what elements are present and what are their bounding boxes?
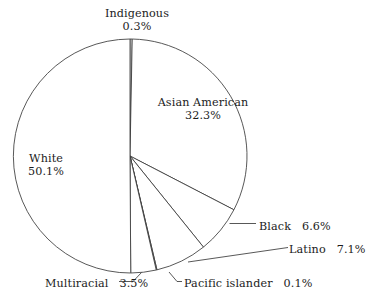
slice-label-pacific-islander: Pacific islander 0.1% — [184, 277, 312, 290]
slice-label-white-name: White — [14, 152, 78, 165]
slice-label-asian-american: Asian American 32.3% — [151, 96, 255, 122]
slice-label-white-value: 50.1% — [14, 165, 78, 178]
slice-label-asian-american-name: Asian American — [151, 96, 255, 109]
leader-line-pacific — [169, 272, 177, 282]
slice-label-black-name: Black — [259, 220, 291, 233]
slice-label-black: Black 6.6% — [259, 220, 331, 233]
slice-label-indigenous-value: 0.3% — [89, 20, 185, 33]
slice-label-latino-value: 7.1% — [337, 243, 366, 256]
slice-label-white: White 50.1% — [14, 152, 78, 178]
slice-label-multiracial-value: 3.5% — [120, 277, 149, 290]
slice-label-latino-name: Latino — [289, 243, 326, 256]
slice-label-pacific-islander-value: 0.1% — [284, 277, 313, 290]
slice-label-asian-american-value: 32.3% — [151, 109, 255, 122]
slice-label-indigenous: Indigenous 0.3% — [89, 7, 185, 33]
slice-label-multiracial: Multiracial 3.5% — [45, 277, 148, 290]
leader-line-latino — [188, 248, 288, 263]
slice-label-pacific-islander-name: Pacific islander — [184, 277, 273, 290]
slice-label-latino: Latino 7.1% — [289, 243, 366, 256]
slice-label-black-value: 6.6% — [302, 220, 331, 233]
slice-label-indigenous-name: Indigenous — [89, 7, 185, 20]
slice-label-multiracial-name: Multiracial — [45, 277, 109, 290]
